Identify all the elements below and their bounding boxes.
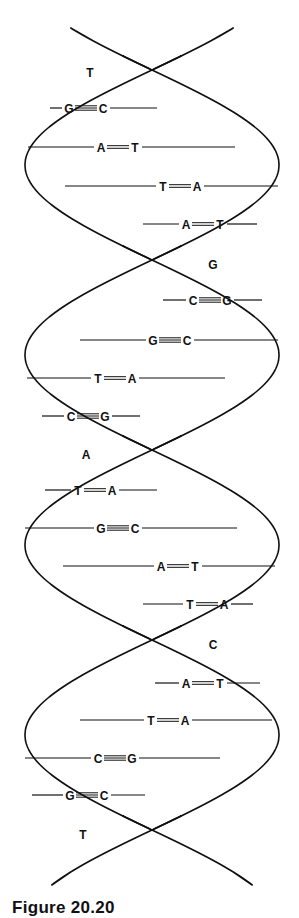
base-letter-left: G: [64, 102, 73, 116]
base-letter-right: T: [216, 677, 224, 691]
base-pair-TA: TA: [80, 714, 272, 728]
base-letter-right: T: [191, 560, 199, 574]
base-letter-right: T: [131, 141, 139, 155]
strand-1-segment: [123, 56, 279, 259]
base-letter-left: A: [97, 141, 106, 155]
back-strand-layer: [25, 28, 181, 885]
base-letter-left: C: [189, 294, 198, 308]
base-letter-left: A: [157, 560, 166, 574]
crossover-base-label: T: [86, 66, 94, 80]
strand-2-segment: [154, 28, 233, 69]
base-pair-AT: AT: [143, 218, 257, 232]
strand-2-segment: [123, 246, 279, 449]
base-pair-TA: TA: [45, 484, 157, 498]
dna-double-helix: GCATTAATCGGCTACGTAGCATTAATTACGGC TGACT: [0, 0, 299, 900]
base-letter-left: T: [159, 180, 167, 194]
base-letter-left: C: [67, 410, 76, 424]
strand-1-segment: [123, 816, 252, 885]
base-letter-right: A: [181, 714, 190, 728]
base-letter-left: T: [74, 484, 82, 498]
base-letter-left: C: [94, 752, 103, 766]
base-letter-right: C: [100, 789, 109, 803]
base-letter-left: G: [148, 334, 157, 348]
base-letter-right: A: [108, 484, 117, 498]
base-letter-right: C: [183, 334, 192, 348]
base-letter-left: T: [186, 598, 194, 612]
base-pair-GC: GC: [80, 334, 278, 348]
strand-2-segment: [123, 626, 279, 829]
base-pair-TA: TA: [65, 180, 278, 194]
base-letter-left: T: [147, 714, 155, 728]
base-letter-right: C: [131, 522, 140, 536]
base-letter-right: A: [128, 372, 137, 386]
base-pair-CG: CG: [163, 294, 262, 308]
crossover-base-label: G: [208, 258, 217, 272]
base-pair-TA: TA: [143, 598, 253, 612]
base-pair-GC: GC: [32, 789, 145, 803]
front-strand-layer: [123, 28, 279, 885]
strand-2-segment: [52, 816, 181, 885]
base-pair-CG: CG: [25, 752, 220, 766]
crossover-base-label: T: [79, 828, 87, 842]
strand-2-segment: [25, 436, 181, 639]
base-letter-left: A: [182, 218, 191, 232]
base-pair-AT: AT: [63, 560, 275, 574]
base-letter-right: G: [100, 410, 109, 424]
base-pair-CG: CG: [42, 410, 140, 424]
base-letter-left: T: [94, 372, 102, 386]
base-letter-left: G: [65, 789, 74, 803]
strand-1-segment: [123, 436, 279, 639]
figure-caption: Figure 20.20: [12, 898, 115, 918]
base-letter-right: G: [127, 752, 136, 766]
base-letter-right: C: [99, 102, 108, 116]
base-letter-right: A: [193, 180, 202, 194]
base-pair-layer: GCATTAATCGGCTACGTAGCATTAATTACGGC: [25, 102, 278, 803]
base-pair-TA: TA: [27, 372, 225, 386]
base-pair-AT: AT: [28, 141, 235, 155]
crossover-base-label: A: [82, 448, 91, 462]
crossover-base-label: C: [209, 638, 218, 652]
strand-2-segment: [25, 56, 181, 259]
base-letter-left: G: [96, 522, 105, 536]
base-pair-GC: GC: [25, 522, 237, 536]
base-pair-GC: GC: [50, 102, 157, 116]
base-letter-left: A: [182, 677, 191, 691]
